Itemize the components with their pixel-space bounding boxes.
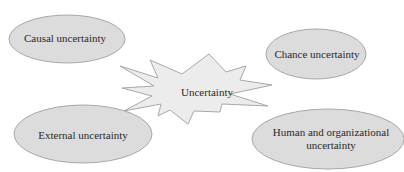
node-human-label-line2: uncertainty [273, 139, 389, 152]
node-human-label-line1: Human and organizational [273, 126, 389, 139]
node-human-label: Human and organizational uncertainty [273, 126, 389, 152]
node-chance-label: Chance uncertainty [274, 48, 359, 61]
center-label: Uncertainty [181, 86, 233, 99]
node-external-label: External uncertainty [38, 129, 128, 142]
node-causal-label: Causal uncertainty [24, 32, 106, 45]
